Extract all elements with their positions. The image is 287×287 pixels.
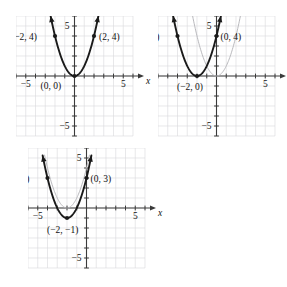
graph-panel-2: 55−5xy(−4, 4)(−2, 0)(0, 4): [158, 16, 287, 154]
y-tick-label: 5: [207, 21, 212, 31]
x-tick-label: −5: [33, 211, 43, 221]
x-tick-label: 5: [121, 79, 126, 89]
y-tick-label: −5: [59, 121, 69, 131]
graph-panel-3: −555−5xy(−4, 3)(−2, −1)(0, 3): [28, 148, 167, 286]
point-label: (−4, 3): [28, 174, 29, 185]
plotted-point: [84, 176, 88, 180]
plotted-point: [53, 34, 57, 38]
x-axis-label: x: [145, 76, 151, 86]
plotted-point: [195, 74, 199, 78]
plotted-point: [72, 74, 76, 78]
point-label: (−2, 4): [16, 32, 37, 43]
point-label: (−4, 4): [158, 32, 159, 43]
point-label: (−2, 0): [177, 82, 203, 93]
x-tick-label: 5: [133, 211, 138, 221]
x-axis-label: x: [157, 208, 163, 218]
plotted-point: [175, 34, 179, 38]
plotted-points: (−4, 4)(−2, 0)(0, 4): [158, 32, 241, 93]
plotted-point: [214, 34, 218, 38]
coordinate-plane: 55−5xy(−4, 4)(−2, 0)(0, 4): [158, 16, 287, 154]
y-tick-label: 5: [65, 21, 70, 31]
plotted-point: [92, 34, 96, 38]
coordinate-plane: −555−5xy(−4, 3)(−2, −1)(0, 3): [28, 148, 167, 286]
plotted-point: [65, 216, 69, 220]
point-label: (−2, −1): [47, 225, 78, 236]
x-tick-label: −5: [21, 79, 31, 89]
point-label: (0, 4): [221, 32, 242, 43]
point-label: (2, 4): [99, 32, 120, 43]
graph-panel-1: −555−5xy(−2, 4)(0, 0)(2, 4): [16, 16, 155, 154]
y-tick-label: 5: [77, 153, 82, 163]
plotted-points: (−4, 3)(−2, −1)(0, 3): [28, 174, 111, 236]
coordinate-plane: −555−5xy(−2, 4)(0, 0)(2, 4): [16, 16, 155, 154]
plotted-point: [45, 176, 49, 180]
x-tick-label: 5: [263, 79, 268, 89]
y-tick-label: −5: [201, 121, 211, 131]
y-tick-label: −5: [71, 253, 81, 263]
point-label: (0, 0): [41, 81, 62, 92]
point-label: (0, 3): [91, 174, 112, 185]
